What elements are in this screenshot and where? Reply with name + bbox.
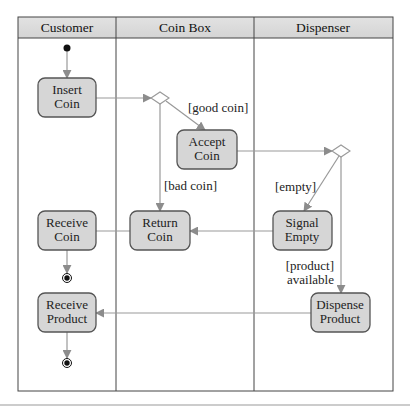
lane-header-customer: Customer: [41, 20, 94, 35]
decision-node-stock: [332, 145, 350, 157]
action-dispense-product: Dispense Product: [311, 293, 370, 332]
action-label: Insert: [52, 82, 82, 97]
action-receive-coin: Receive Coin: [38, 211, 96, 250]
activity-diagram: Customer Coin Box Dispenser Insert Coin: [0, 0, 410, 408]
action-accept-coin: Accept Coin: [177, 130, 237, 169]
final-node-1: [63, 274, 72, 283]
guard-good-coin: [good coin]: [188, 100, 248, 115]
guard-product-line1: [product]: [286, 258, 334, 273]
action-label: Coin: [147, 229, 173, 244]
action-label: Product: [320, 311, 361, 326]
action-label: Empty: [285, 229, 320, 244]
guard-product-line2: available: [287, 272, 334, 287]
guard-empty: [empty]: [275, 179, 316, 194]
initial-node: [64, 45, 71, 52]
swimlane-frame: [18, 17, 393, 391]
lane-header-coinbox: Coin Box: [159, 20, 211, 35]
action-signal-empty: Signal Empty: [273, 211, 332, 250]
action-label: Coin: [54, 229, 80, 244]
action-insert-coin: Insert Coin: [38, 78, 96, 117]
action-label: Coin: [194, 148, 220, 163]
action-label: Accept: [189, 134, 226, 149]
action-label: Coin: [54, 96, 80, 111]
action-return-coin: Return Coin: [130, 211, 190, 250]
action-label: Product: [47, 311, 88, 326]
action-label: Receive: [46, 297, 88, 312]
decision-node-coin: [151, 92, 169, 104]
action-label: Dispense: [316, 297, 364, 312]
flows: [67, 51, 341, 358]
final-node-2: [63, 359, 72, 368]
action-label: Return: [142, 215, 178, 230]
guard-bad-coin: [bad coin]: [164, 178, 217, 193]
frame-border: [18, 17, 393, 391]
action-label: Receive: [46, 215, 88, 230]
lane-header-dispenser: Dispenser: [296, 20, 350, 35]
action-receive-product: Receive Product: [38, 293, 96, 332]
action-label: Signal: [285, 215, 319, 230]
